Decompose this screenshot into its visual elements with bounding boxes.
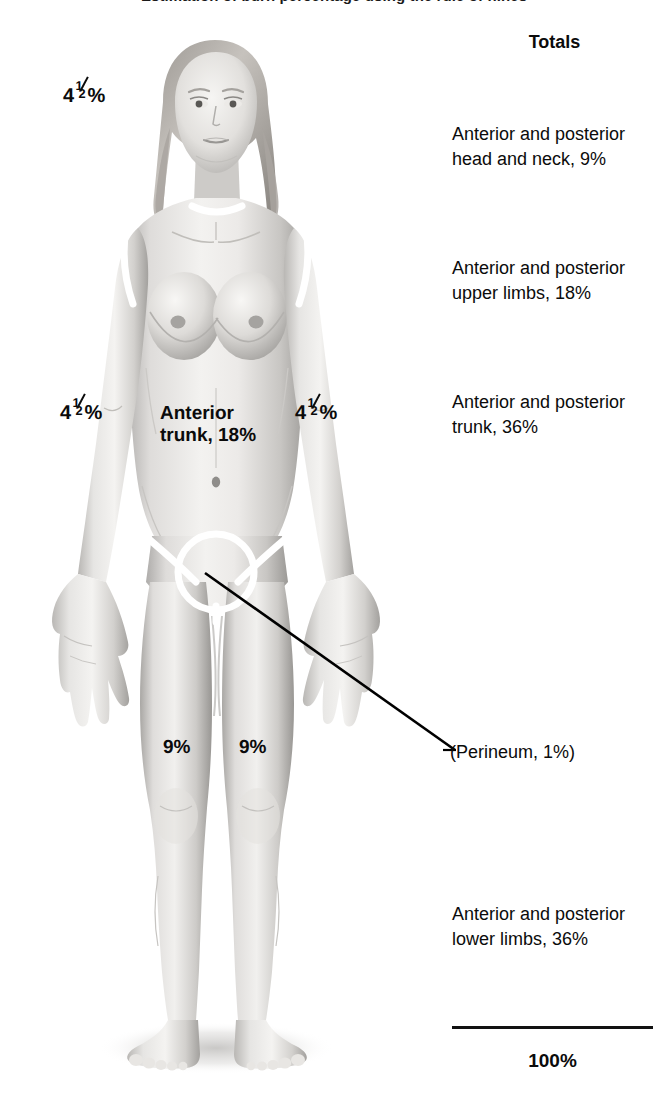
head-suffix: % <box>88 85 106 107</box>
totals-divider-rule <box>452 1026 653 1029</box>
arm-left-suffix: % <box>85 402 103 424</box>
label-left-leg-percent: 9% <box>163 737 190 759</box>
label-right-arm-percent: 412% <box>295 399 337 426</box>
arm-right-fraction: 12 <box>307 399 319 419</box>
total-upper-line2: upper limbs, 18% <box>452 281 660 306</box>
head-fraction: 12 <box>75 82 87 102</box>
arm-left-fraction: 12 <box>72 399 84 419</box>
label-left-arm-percent: 412% <box>60 399 102 426</box>
arm-left-whole: 4 <box>60 402 71 424</box>
trunk-line-1: Anterior <box>160 403 234 424</box>
total-head-and-neck: Anterior and posterior head and neck, 9% <box>452 122 660 172</box>
total-upper-limbs: Anterior and posterior upper limbs, 18% <box>452 256 660 306</box>
total-upper-line1: Anterior and posterior <box>452 258 625 278</box>
total-trunk-line2: trunk, 36% <box>452 415 660 440</box>
figure-caption-cropped: Estimation of burn percentage using the … <box>0 0 668 9</box>
arm-right-whole: 4 <box>295 402 306 424</box>
total-trunk: Anterior and posterior trunk, 36% <box>452 390 660 440</box>
totals-heading: Totals <box>452 32 657 53</box>
label-right-leg-percent: 9% <box>239 737 266 759</box>
totals-sum: 100% <box>452 1050 653 1072</box>
rule-of-nines-figure: Estimation of burn percentage using the … <box>0 0 668 1106</box>
total-lower-line1: Anterior and posterior <box>452 904 625 924</box>
label-head-percent: 412% <box>63 82 105 109</box>
total-head-line1: Anterior and posterior <box>452 124 625 144</box>
total-trunk-line1: Anterior and posterior <box>452 392 625 412</box>
head-whole: 4 <box>63 85 74 107</box>
label-perineum: (Perineum, 1%) <box>450 742 575 763</box>
total-head-line2: head and neck, 9% <box>452 147 660 172</box>
total-lower-line2: lower limbs, 36% <box>452 927 660 952</box>
trunk-line-2: trunk, 18% <box>160 425 256 446</box>
total-lower-limbs: Anterior and posterior lower limbs, 36% <box>452 902 660 952</box>
arm-right-suffix: % <box>320 402 338 424</box>
body-illustration <box>0 16 440 1086</box>
label-anterior-trunk: Anterior trunk, 18% <box>160 403 256 448</box>
